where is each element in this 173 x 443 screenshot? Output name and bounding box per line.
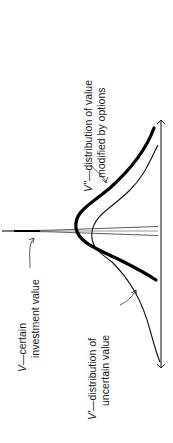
- v-leader-arrow: [30, 238, 34, 268]
- label-v: V—certain investment value: [16, 279, 42, 372]
- label-v-double-prime-line2: modified by options: [95, 80, 108, 192]
- v-prime-leader-arrow: [120, 290, 136, 305]
- label-v-line1: V—certain: [16, 279, 29, 372]
- label-v-prime: V'—distribution of uncertain value: [86, 335, 112, 420]
- label-v-double-prime: V''—distribution of value modified by op…: [82, 80, 108, 192]
- label-v-prime-line1: V'—distribution of: [86, 335, 99, 420]
- label-v-line2: investment value: [29, 279, 42, 372]
- label-v-prime-line2: uncertain value: [99, 335, 112, 420]
- label-v-double-prime-line1: V''—distribution of value: [82, 80, 95, 192]
